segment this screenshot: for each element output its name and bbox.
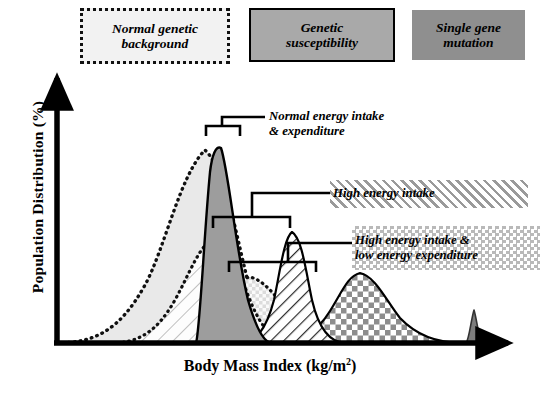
annotation-line2: low energy expenditure bbox=[355, 248, 537, 263]
annotation-line1: High energy intake & bbox=[355, 233, 537, 248]
annotation-normal-energy: Normal energy intake & expenditure bbox=[266, 108, 387, 140]
annotation-high-intake-low-expenditure: High energy intake & low energy expendit… bbox=[352, 226, 540, 270]
annotation-line2: & expenditure bbox=[269, 124, 345, 138]
annotation-line1: High energy intake bbox=[333, 186, 435, 201]
x-axis-label: Body Mass Index (kg/m2) bbox=[55, 356, 485, 375]
x-axis-label-tail: ) bbox=[351, 357, 356, 374]
annotation-high-energy-intake: High energy intake bbox=[330, 180, 528, 208]
y-axis-label: Population Distribution (%) bbox=[29, 63, 47, 331]
leader-normal-energy bbox=[206, 117, 265, 136]
x-axis-label-main: Body Mass Index (kg/m bbox=[184, 357, 346, 374]
annotation-line1: Normal energy intake bbox=[269, 109, 384, 123]
curve-single-gene-mutation bbox=[466, 310, 482, 343]
figure-canvas: Normal genetic background Genetic suscep… bbox=[0, 0, 544, 393]
